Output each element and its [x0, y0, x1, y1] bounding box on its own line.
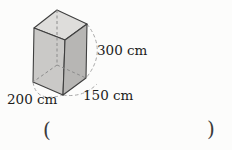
cuboid-diagram: 300 cm 200 cm 150 cm ( ): [0, 0, 232, 150]
answer-close-paren: ): [207, 117, 215, 141]
height-dimension-arc: [86, 24, 97, 78]
answer-open-paren: (: [43, 118, 51, 142]
height-label: 300 cm: [97, 42, 148, 58]
worksheet-figure: 300 cm 200 cm 150 cm ( ): [0, 0, 232, 150]
cuboid-left-face: [33, 28, 65, 95]
depth-label: 150 cm: [83, 87, 134, 103]
width-label: 200 cm: [7, 91, 58, 107]
